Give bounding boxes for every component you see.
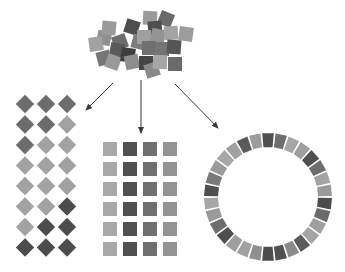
grid-tile: [123, 202, 137, 216]
grid-tile: [123, 182, 137, 196]
diamond-tile: [37, 238, 55, 256]
grid-tile: [103, 202, 117, 216]
arrow-to-ring: [175, 84, 218, 128]
ring-segment: [249, 245, 262, 261]
diamond-tile: [37, 156, 55, 174]
scattered-square: [142, 41, 156, 55]
ring-segment: [317, 198, 332, 210]
grid-tile: [143, 182, 157, 196]
ring-arrangement: [204, 133, 332, 260]
grid-tile: [103, 222, 117, 236]
grid-tile: [103, 242, 117, 256]
diamond-tile: [16, 197, 34, 215]
diamond-tile: [16, 238, 34, 256]
scattered-square: [153, 55, 167, 69]
ring-segment: [262, 247, 274, 261]
scattered-square: [164, 26, 179, 41]
grid-tile: [123, 162, 137, 176]
grid-tile: [123, 242, 137, 256]
diamond-tile: [58, 177, 76, 195]
diagram-svg: [0, 0, 345, 272]
diamond-tile: [58, 218, 76, 236]
scattered-squares-cluster: [88, 10, 194, 79]
diamond-tile: [16, 95, 34, 113]
diamond-tile: [37, 177, 55, 195]
grid-tile: [143, 162, 157, 176]
ring-segment: [274, 245, 287, 261]
ring-segment: [317, 185, 332, 197]
scattered-square: [88, 36, 104, 52]
diamond-tile: [58, 115, 76, 133]
square-grid: [103, 142, 177, 256]
ring-segment: [249, 133, 262, 149]
scattered-square: [178, 26, 194, 42]
scattered-square: [124, 54, 141, 71]
diamond-tile: [16, 136, 34, 154]
diamond-tile: [37, 197, 55, 215]
grid-tile: [143, 242, 157, 256]
diagram-canvas: [0, 0, 345, 272]
grid-tile: [163, 202, 177, 216]
grid-tile: [103, 182, 117, 196]
grid-tile: [163, 162, 177, 176]
diamond-tile: [58, 156, 76, 174]
arrow-to-diamond-lattice: [86, 83, 113, 110]
diamond-tile: [58, 95, 76, 113]
diamond-tile: [58, 197, 76, 215]
diamond-tile: [37, 218, 55, 236]
scattered-square: [167, 40, 182, 55]
ring-segment: [204, 198, 219, 210]
diamond-tile: [58, 238, 76, 256]
grid-tile: [163, 242, 177, 256]
ring-segment: [274, 133, 287, 149]
grid-tile: [143, 202, 157, 216]
grid-tile: [103, 142, 117, 156]
diamond-tile: [16, 218, 34, 236]
grid-tile: [143, 222, 157, 236]
grid-tile: [123, 142, 137, 156]
diamond-tile: [58, 136, 76, 154]
grid-tile: [163, 182, 177, 196]
diamond-tile: [16, 115, 34, 133]
scattered-square: [168, 57, 182, 71]
diamond-tile: [16, 156, 34, 174]
grid-tile: [103, 162, 117, 176]
ring-segment: [262, 133, 274, 147]
diamond-tile: [37, 136, 55, 154]
ring-segment: [204, 185, 219, 197]
transformation-arrows: [86, 80, 218, 133]
diamond-lattice: [16, 95, 76, 257]
diamond-tile: [37, 115, 55, 133]
grid-tile: [123, 222, 137, 236]
grid-tile: [163, 222, 177, 236]
scattered-square: [101, 20, 116, 35]
diamond-tile: [16, 177, 34, 195]
diamond-tile: [37, 95, 55, 113]
grid-tile: [163, 142, 177, 156]
grid-tile: [143, 142, 157, 156]
